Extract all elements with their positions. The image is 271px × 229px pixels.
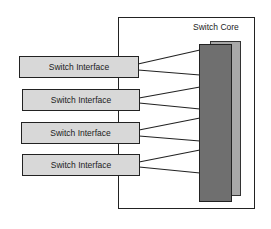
switch-fabric-front-plane xyxy=(199,44,232,202)
switch-interface-label: Switch Interface xyxy=(51,95,111,105)
switch-interface-1: Switch Interface xyxy=(19,56,139,78)
switch-interface-label: Switch Interface xyxy=(49,62,109,72)
switch-interface-3: Switch Interface xyxy=(21,122,140,144)
switch-interface-label: Switch Interface xyxy=(51,160,111,170)
switch-architecture-diagram: Switch Core Switch Interface Switch Inte… xyxy=(0,0,271,229)
switch-interface-2: Switch Interface xyxy=(22,89,140,111)
switch-interface-label: Switch Interface xyxy=(50,128,110,138)
switch-interface-4: Switch Interface xyxy=(22,154,140,176)
